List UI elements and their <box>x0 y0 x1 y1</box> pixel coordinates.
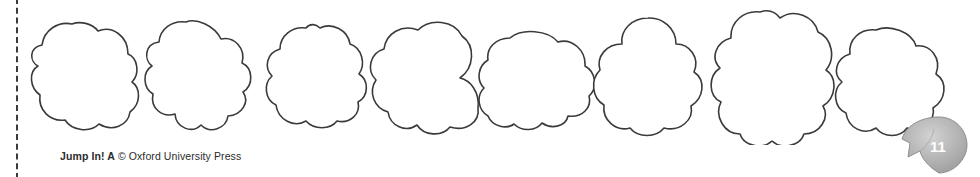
cloud-shape-4 <box>370 22 478 134</box>
cloud-shape-3 <box>266 25 366 128</box>
footer-credit: Jump In! A © Oxford University Press <box>60 150 241 162</box>
cloud-shape-7 <box>711 11 834 145</box>
cloud-shape-1 <box>31 23 138 130</box>
footer-title: Jump In! A <box>60 150 115 162</box>
cloud-shape-5 <box>479 32 595 130</box>
footer-copyright: © Oxford University Press <box>118 150 241 162</box>
badge-teardrop-shape <box>902 117 967 173</box>
page-number-badge: 11 <box>898 113 972 177</box>
cloud-shapes-row <box>0 0 980 145</box>
worksheet-page: Jump In! A © Oxford University Press 11 <box>0 0 980 177</box>
cloud-shape-6 <box>594 18 702 136</box>
cloud-shape-2 <box>145 21 251 130</box>
